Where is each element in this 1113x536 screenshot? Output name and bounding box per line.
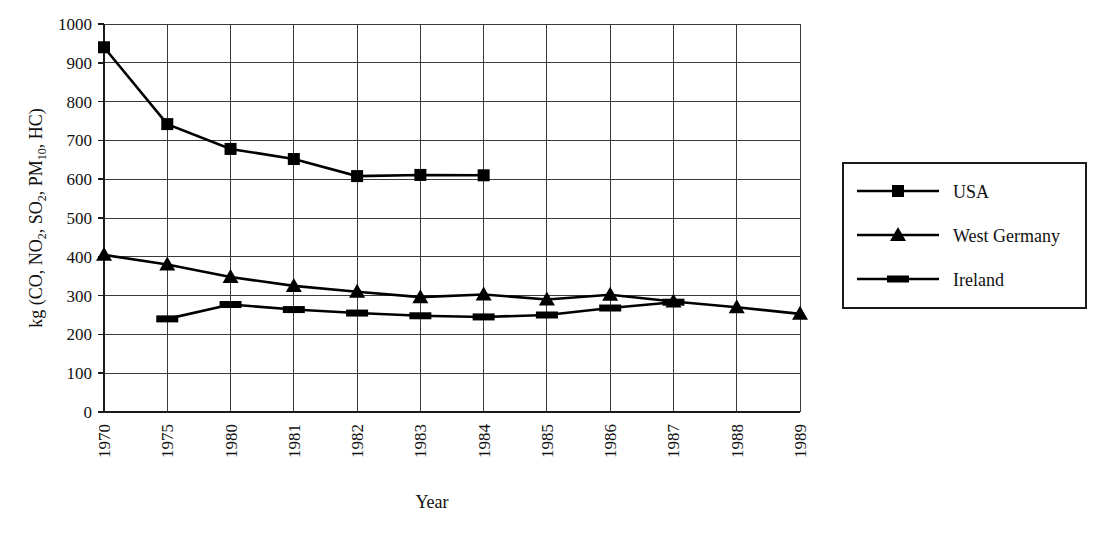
y-tick-label: 800: [67, 93, 93, 112]
y-tick-label: 300: [67, 287, 93, 306]
legend-item-ireland[interactable]: Ireland: [857, 270, 1004, 290]
data-point-marker: [96, 247, 112, 261]
legend-marker-square: [892, 185, 904, 197]
emissions-line-chart: 01002003004005006007008009001000 1970197…: [0, 0, 1113, 536]
x-axis-tick-labels: 1970197519801981198219831984198519861987…: [95, 424, 810, 459]
data-point-marker: [473, 313, 495, 320]
chart-legend: USAWest GermanyIreland: [843, 163, 1086, 308]
legend-item-west-germany[interactable]: West Germany: [857, 226, 1060, 246]
series-line: [104, 255, 800, 314]
x-tick-label: 1984: [475, 424, 494, 459]
legend-label: West Germany: [953, 226, 1060, 246]
y-tick-label: 900: [67, 54, 93, 73]
legend-label: USA: [953, 182, 989, 202]
data-point-marker: [409, 312, 431, 319]
y-tick-label: 1000: [58, 15, 92, 34]
x-tick-label: 1989: [791, 424, 810, 458]
data-point-marker: [346, 310, 368, 317]
y-tick-label: 500: [67, 209, 93, 228]
y-tick-label: 0: [84, 403, 93, 422]
data-point-marker: [161, 118, 173, 130]
data-point-marker: [220, 301, 242, 308]
y-axis-title: kg (CO, NO2, SO2, PM10, HC): [26, 108, 49, 328]
data-point-marker: [536, 312, 558, 319]
series-west-germany: [96, 247, 808, 320]
x-axis-title-text: Year: [415, 492, 448, 512]
data-point-marker: [351, 170, 363, 182]
x-tick-label: 1975: [158, 424, 177, 458]
x-tick-label: 1987: [664, 424, 683, 459]
y-tick-label: 700: [67, 131, 93, 150]
data-point-marker: [599, 305, 621, 312]
legend-label: Ireland: [953, 270, 1004, 290]
x-axis-title: Year: [415, 492, 448, 512]
data-point-marker: [98, 41, 110, 53]
legend-marker-dash: [887, 276, 909, 283]
x-tick-label: 1982: [348, 424, 367, 458]
y-tick-label: 100: [67, 364, 93, 383]
data-point-marker: [225, 143, 237, 155]
data-point-marker: [414, 169, 426, 181]
y-tick-label: 200: [67, 325, 93, 344]
data-point-marker: [662, 299, 684, 306]
legend-item-usa[interactable]: USA: [857, 182, 989, 202]
data-point-marker: [283, 306, 305, 313]
x-tick-label: 1988: [728, 424, 747, 458]
data-point-marker: [156, 315, 178, 322]
data-point-marker: [478, 169, 490, 181]
x-tick-label: 1981: [285, 424, 304, 458]
chart-figure: 01002003004005006007008009001000 1970197…: [0, 0, 1113, 536]
x-tick-label: 1983: [411, 424, 430, 458]
grid-lines: [104, 24, 800, 412]
y-tick-label: 600: [67, 170, 93, 189]
y-axis-tick-labels: 01002003004005006007008009001000: [58, 15, 92, 422]
x-tick-label: 1980: [222, 424, 241, 458]
data-point-marker: [602, 287, 618, 301]
data-series: [96, 41, 808, 322]
data-point-marker: [288, 153, 300, 165]
x-tick-label: 1986: [601, 424, 620, 458]
y-tick-label: 400: [67, 248, 93, 267]
x-tick-label: 1970: [95, 424, 114, 458]
y-axis-title-text: kg (CO, NO2, SO2, PM10, HC): [26, 108, 49, 328]
x-tick-label: 1985: [538, 424, 557, 458]
